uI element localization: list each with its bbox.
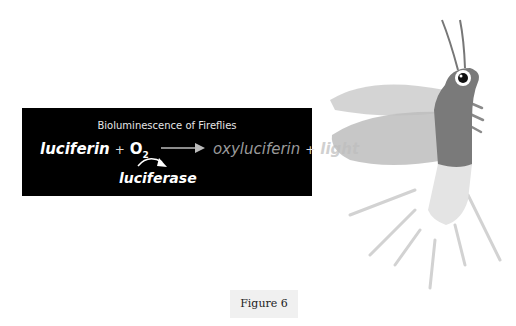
catalyst-curved-arrow-icon [132,152,172,172]
product-oxyluciferin: oxyluciferin [213,140,300,158]
equation-title: Bioluminescence of Fireflies [22,120,312,131]
reactant-luciferin: luciferin [40,140,110,158]
firefly-body [434,68,479,169]
figure-caption: Figure 6 [230,290,298,318]
light-rays-icon [350,190,500,288]
plus-sign: + [115,143,125,157]
firefly-lantern [428,164,472,225]
firefly-illustration [310,0,516,300]
reaction-arrow-icon [161,140,205,152]
enzyme-luciferase: luciferase [119,170,197,186]
wings-icon [330,84,448,165]
equation-panel: Bioluminescence of Fireflies luciferin+O… [22,108,312,196]
